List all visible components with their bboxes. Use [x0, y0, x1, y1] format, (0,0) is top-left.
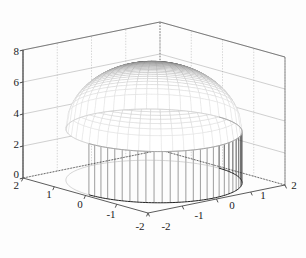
ztick-8: 8: [14, 45, 20, 57]
ytick-neg2: -2: [135, 220, 144, 232]
xtick-neg2: -2: [161, 220, 170, 232]
xtick-neg1: -1: [194, 209, 203, 221]
xtick-0: 0: [229, 199, 235, 211]
tick-label-layer: 8 6 4 2 0 2 1 0 -1 -2 -2 -1 0 1 2: [0, 0, 306, 258]
ztick-4: 4: [14, 107, 20, 119]
ztick-6: 6: [14, 76, 20, 88]
ytick-0: 0: [77, 198, 83, 210]
xtick-2: 2: [291, 179, 297, 191]
xtick-1: 1: [260, 189, 266, 201]
figure-canvas: 8 6 4 2 0 2 1 0 -1 -2 -2 -1 0 1 2: [0, 0, 306, 258]
ytick-neg1: -1: [106, 208, 115, 220]
ytick-1: 1: [46, 188, 52, 200]
ytick-2: 2: [14, 179, 20, 191]
ztick-2: 2: [14, 138, 20, 150]
